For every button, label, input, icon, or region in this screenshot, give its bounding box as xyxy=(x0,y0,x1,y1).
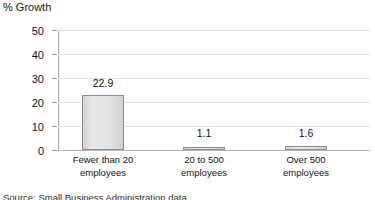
gridline-40 xyxy=(58,54,370,55)
category-label-line2: employees xyxy=(47,166,159,179)
y-tick-mark-10 xyxy=(52,126,57,127)
bar-value-label-2: 1.1 xyxy=(163,128,245,139)
chart-axis-title: % Growth xyxy=(3,1,51,14)
y-tick-label-40: 40 xyxy=(4,50,44,61)
y-tick-label-20: 20 xyxy=(4,98,44,109)
y-tick-mark-40 xyxy=(52,54,57,55)
category-label-line2: employees xyxy=(148,166,260,179)
axis-baseline xyxy=(58,150,370,151)
bar-value-label-1: 22.9 xyxy=(62,78,144,89)
y-tick-label-10: 10 xyxy=(4,122,44,133)
bar-chart: % Growth 50 40 30 20 10 0 22.9 1.1 1.6 F… xyxy=(0,0,375,200)
y-tick-mark-50 xyxy=(52,30,57,31)
y-tick-label-30: 30 xyxy=(4,74,44,85)
category-label-20-to-500-employees: 20 to 500 employees xyxy=(148,153,260,179)
y-tick-label-50: 50 xyxy=(4,26,44,37)
category-label-line1: Fewer than 20 xyxy=(47,153,159,166)
category-label-line2: employees xyxy=(250,166,362,179)
y-tick-label-0: 0 xyxy=(4,146,44,157)
bar-over-500-employees[interactable] xyxy=(285,146,327,150)
bar-fewer-than-20-employees[interactable] xyxy=(82,95,124,150)
source-note: Source: Small Business Administration da… xyxy=(3,192,187,200)
category-label-line1: 20 to 500 xyxy=(148,153,260,166)
gridline-50 xyxy=(58,30,370,31)
bar-20-to-500-employees[interactable] xyxy=(183,147,225,150)
category-label-fewer-than-20-employees: Fewer than 20 employees xyxy=(47,153,159,179)
y-tick-mark-20 xyxy=(52,102,57,103)
y-tick-mark-0 xyxy=(52,150,57,151)
category-label-line1: Over 500 xyxy=(250,153,362,166)
category-label-over-500-employees: Over 500 employees xyxy=(250,153,362,179)
y-tick-mark-30 xyxy=(52,78,57,79)
bar-value-label-3: 1.6 xyxy=(265,128,347,139)
